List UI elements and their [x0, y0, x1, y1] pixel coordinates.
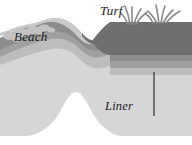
- right-upper-soil-band: [110, 55, 192, 61]
- right-bedding-band: [110, 68, 192, 75]
- label-liner: Liner: [105, 100, 133, 113]
- label-beach: Beach: [14, 30, 47, 43]
- right-liner-band: [110, 61, 192, 68]
- turf-block-slab: [110, 22, 192, 55]
- label-turf: Turf: [100, 4, 122, 17]
- beach-dune-cross-section-figure: Beach Turf Liner: [0, 0, 192, 145]
- figure-caption: [4, 137, 188, 145]
- grass-tufts: [120, 5, 180, 24]
- cross-section-illustration: [0, 0, 192, 145]
